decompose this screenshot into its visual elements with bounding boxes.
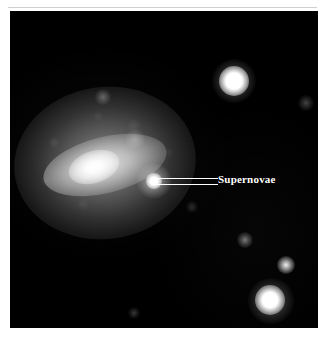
- galaxy-core: [64, 144, 123, 191]
- galaxy-halo: [10, 75, 206, 251]
- star-faint-edge: [298, 95, 314, 111]
- figure-top-rule: [8, 7, 317, 8]
- star-lower-right: [255, 285, 285, 315]
- sky-image: Supernovae: [10, 11, 318, 328]
- star-right-small: [277, 256, 295, 274]
- supernovae-leader-line-upper: [152, 178, 218, 179]
- star-lower-right-glow: [248, 278, 294, 324]
- star-faint-mid: [237, 232, 253, 248]
- supernova-glow: [136, 163, 172, 199]
- galaxy-mottling: [11, 82, 199, 246]
- supernova-figure: Supernovae: [0, 0, 325, 338]
- star-upper-right: [219, 66, 249, 96]
- supernovae-leader-line-lower: [152, 184, 218, 185]
- supernova-core: [146, 173, 162, 189]
- star-faint-left-low: [186, 201, 198, 213]
- galaxy-knot-north: [94, 89, 112, 105]
- galaxy-knot-east: [124, 129, 146, 149]
- star-faint-bottom: [128, 307, 140, 319]
- supernovae-label: Supernovae: [218, 172, 276, 186]
- star-upper-right-glow: [212, 59, 256, 103]
- galaxy-inner-disk: [37, 123, 173, 208]
